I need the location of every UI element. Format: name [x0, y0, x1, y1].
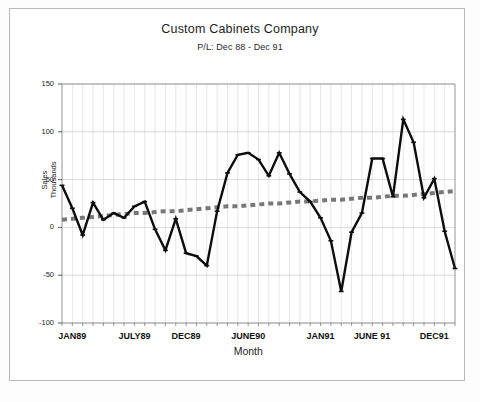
y-tick-label: -50	[26, 270, 54, 279]
x-tick-label: JAN91	[307, 331, 335, 341]
x-tick-label: DEC91	[420, 331, 449, 341]
chart-canvas	[0, 0, 480, 402]
x-axis-label: Month	[234, 345, 263, 357]
x-tick-label: JULY89	[118, 331, 150, 341]
chart-page: Custom Cabinets Company P/L: Dec 88 - De…	[0, 0, 480, 402]
y-tick-label: 100	[26, 127, 54, 136]
x-tick-label: JUNE90	[231, 331, 265, 341]
plot-area	[0, 0, 480, 402]
x-tick-label: JAN89	[58, 331, 86, 341]
y-tick-label: 50	[26, 175, 54, 184]
x-tick-label: DEC89	[172, 331, 201, 341]
x-tick-label: JUNE 91	[354, 331, 391, 341]
y-tick-label: 150	[26, 79, 54, 88]
y-tick-label: 0	[26, 222, 54, 231]
y-tick-label: -100	[26, 318, 54, 327]
